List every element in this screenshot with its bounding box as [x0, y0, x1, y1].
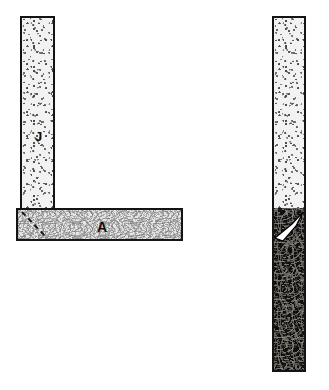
member-k-lower-section [274, 208, 304, 370]
member-j-label: J [35, 130, 42, 143]
figure-canvas: J A [0, 0, 329, 390]
member-k-upper-section [274, 18, 304, 208]
member-a-horizontal-bar: A [16, 208, 183, 241]
member-j-vertical-bar: J [20, 16, 55, 210]
member-a-label: A [97, 220, 107, 234]
member-k-vertical-bar [272, 16, 306, 372]
